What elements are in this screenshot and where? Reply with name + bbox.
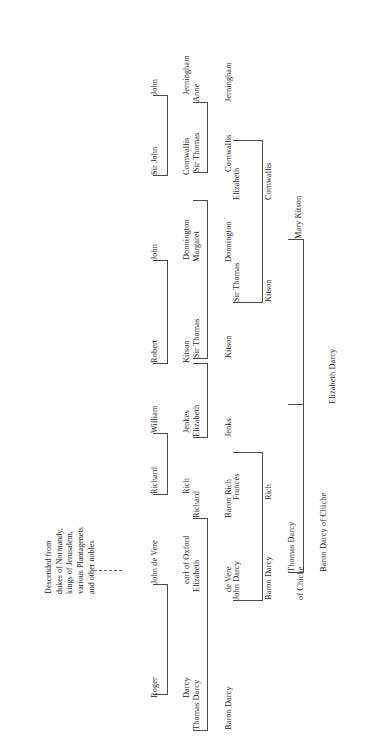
person-anne-jerningham-line-1: Anne	[192, 40, 203, 102]
descent-note-dashed-connector	[94, 570, 122, 571]
connector-elizabeth-jenks-stem	[193, 363, 207, 364]
connector-cornwallis-jerningham-bracket	[167, 95, 168, 176]
person-anne-jerningham: Anne Jerningham	[171, 40, 193, 102]
person-thomas-darcy-baron-darcy: Thomas Darcy Baron Darcy	[171, 660, 193, 730]
person-sir-thomas-kitson-gen3-line-2: Kitson	[264, 244, 275, 302]
person-john-darcy-line-1: John Darcy	[232, 534, 243, 600]
connector-elizabeth-de-vere-stem	[193, 518, 207, 519]
person-roger-darcy: Roger Darcy	[129, 652, 151, 698]
person-roger-darcy-line-1: Roger	[150, 652, 161, 698]
person-frances-rich: Frances Rich	[211, 452, 233, 500]
person-sir-john-cornwallis: Sir John Cornwallis	[129, 113, 151, 175]
connector-mary-kitson-to-child-stem	[288, 239, 303, 240]
person-sir-thomas-kitson-gen2: Sir Thomas Kitson	[171, 300, 193, 358]
connector-kitson-donnington-bracket	[167, 260, 168, 364]
person-john-jerningham-line-1: John	[150, 33, 161, 95]
connector-thomas-darcy-chiche-to-child-stem	[288, 572, 303, 573]
connector-kitson-gen3-to-child-stem	[233, 302, 262, 303]
connector-margaret-donnington-stem	[193, 200, 207, 201]
person-john-donnington-line-1: John	[150, 198, 161, 260]
person-william-jenkes: William Jenkes	[129, 385, 151, 433]
person-thomas-darcy-baron-darcy-of-chiche: Thomas Darcy Baron Darcy of Chiche	[266, 452, 288, 572]
connector-anne-jerningham-stem	[193, 102, 207, 103]
descent-note-line-5: and other nobles	[87, 540, 96, 594]
connector-john-jerningham-stem	[153, 95, 167, 96]
person-elizabeth-jenks-line-1: Elizabeth	[192, 385, 203, 437]
connector-frances-rich-bracket	[207, 363, 208, 438]
connector-rich-jenkes-bracket	[167, 433, 168, 495]
descent-note-line-1: Descended from	[44, 541, 53, 594]
person-sir-thomas-cornwallis-line-1: Sir Thomas	[192, 110, 203, 172]
connector-kitson-gen3-bracket	[207, 200, 208, 359]
person-thomas-darcy-baron-darcy-line-1: Thomas Darcy	[192, 660, 203, 730]
person-richard-baron-rich-line-1: Richard	[192, 452, 203, 518]
person-elizabeth-de-vere-line-1: Elizabeth	[192, 540, 203, 592]
person-richard-baron-rich: Richard Baron Rich	[171, 452, 193, 518]
person-anne-jerningham-line-2: Jerningham	[224, 40, 235, 102]
person-william-jenkes-line-1: William	[150, 385, 161, 433]
connector-john-de-vere-stem	[153, 584, 167, 585]
connector-richard-rich-stem	[153, 494, 167, 495]
person-sir-john-cornwallis-line-1: Sir John	[150, 113, 161, 175]
person-frances-rich-line-1: Frances	[232, 452, 243, 500]
person-elizabeth-darcy-line-1: Elizabeth Darcy	[328, 318, 339, 404]
connector-roger-darcy-stem	[153, 694, 167, 695]
connector-kitson-gen2-stem	[193, 358, 207, 359]
person-robert-kitson: Robert Kitson	[129, 315, 151, 363]
connector-elizabeth-darcy-stem	[288, 404, 303, 405]
descent-note-line-2: dukes of Normandy,	[55, 528, 64, 594]
person-richard-rich: Richard Rich	[129, 448, 151, 494]
person-elizabeth-de-vere: Elizabeth de Vere	[171, 540, 193, 592]
connector-thomas-darcy-chiche-bracket	[262, 452, 263, 601]
person-elizabeth-jenks-line-2: Jenks	[224, 385, 235, 437]
connector-darcy-devere-bracket	[167, 584, 168, 695]
connector-john-darcy-bracket	[207, 518, 208, 731]
descent-note-line-4: various Plantagenets	[76, 527, 85, 594]
connector-mary-kitson-bracket	[262, 140, 263, 303]
connector-richard-baron-rich-stem	[193, 437, 207, 438]
person-john-de-vere-line-1: John de Vere	[150, 512, 161, 584]
person-mary-kitson: Mary Kitson	[273, 173, 285, 239]
person-margaret-donnington-line-1: Margaret	[192, 200, 203, 262]
person-richard-rich-line-1: Richard	[150, 448, 161, 494]
person-sir-thomas-kitson-gen3: Sir Thomas Kitson	[211, 244, 233, 302]
ancestry-chart: Descended from dukes of Normandy, kings …	[0, 0, 376, 742]
person-thomas-darcy-chiche-line-1: Thomas Darcy	[287, 452, 298, 572]
connector-thomas-darcy-stem	[193, 730, 207, 731]
person-sir-thomas-kitson-gen2-line-2: Kitson	[224, 300, 235, 358]
connector-elizabeth-cornwallis-bracket	[207, 102, 208, 173]
person-elizabeth-cornwallis: Elizabeth Cornwallis	[211, 140, 233, 200]
connector-john-donnington-stem	[153, 260, 167, 261]
person-sir-thomas-kitson-gen3-line-1: Sir Thomas	[232, 244, 243, 302]
person-john-darcy-baron-darcy-of-chiche: John Darcy Baron Darcy of Chiche	[211, 534, 243, 600]
connector-robert-kitson-stem	[153, 363, 167, 364]
connector-elizabeth-cornwallis-to-child-stem	[233, 140, 262, 141]
descent-note-line-3: kings of Jerusalem,	[65, 531, 74, 594]
person-john-donnington: John Donnington	[129, 198, 151, 260]
person-sir-thomas-kitson-gen2-line-1: Sir Thomas	[192, 300, 203, 358]
person-elizabeth-jenks: Elizabeth Jenks	[171, 385, 193, 437]
person-sir-thomas-cornwallis: Sir Thomas Cornwallis	[171, 110, 193, 172]
connector-frances-rich-to-child-stem	[233, 452, 262, 453]
person-margaret-donnington: Margaret Donnington	[171, 200, 193, 262]
connector-sir-john-cornwallis-stem	[153, 175, 167, 176]
connector-john-darcy-to-child-stem	[233, 600, 262, 601]
person-thomas-darcy-chiche-line-2: Baron Darcy of Chiche	[319, 452, 330, 572]
person-elizabeth-darcy: Elizabeth Darcy	[307, 318, 319, 404]
person-robert-kitson-line-1: Robert	[150, 315, 161, 363]
person-thomas-darcy-baron-darcy-line-2: Baron Darcy	[224, 660, 235, 730]
person-john-de-vere: John de Vere earl of Oxford	[129, 512, 151, 584]
connector-sir-thomas-cornwallis-stem	[193, 172, 207, 173]
descent-note: Descended from dukes of Normandy, kings …	[33, 452, 73, 602]
person-elizabeth-cornwallis-line-1: Elizabeth	[232, 140, 243, 200]
person-mary-kitson-line-1: Mary Kitson	[294, 173, 305, 239]
connector-william-jenkes-stem	[153, 433, 167, 434]
person-john-jerningham: John Jerningham	[129, 33, 151, 95]
connector-elizabeth-darcy-bracket	[303, 239, 304, 573]
